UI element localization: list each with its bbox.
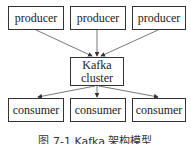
figure-caption: 图 7-1 Kafka 架构模型 [0, 132, 191, 144]
broker-line1: Kafka [82, 59, 111, 72]
consumer-label: consumer [136, 104, 183, 117]
producer-box-3: producer [132, 6, 186, 30]
broker-line2: cluster [81, 72, 113, 85]
producer-label: producer [15, 12, 58, 25]
consumer-box-2: consumer [70, 98, 126, 122]
producer-box-1: producer [8, 6, 64, 30]
consumer-box-1: consumer [8, 98, 64, 122]
producer-box-2: producer [70, 6, 126, 30]
consumer-label: consumer [13, 104, 60, 117]
producer-label: producer [138, 12, 181, 25]
kafka-cluster-box: Kafka cluster [70, 57, 124, 86]
consumer-label: consumer [75, 104, 122, 117]
producer-label: producer [77, 12, 120, 25]
consumer-box-3: consumer [132, 98, 186, 122]
